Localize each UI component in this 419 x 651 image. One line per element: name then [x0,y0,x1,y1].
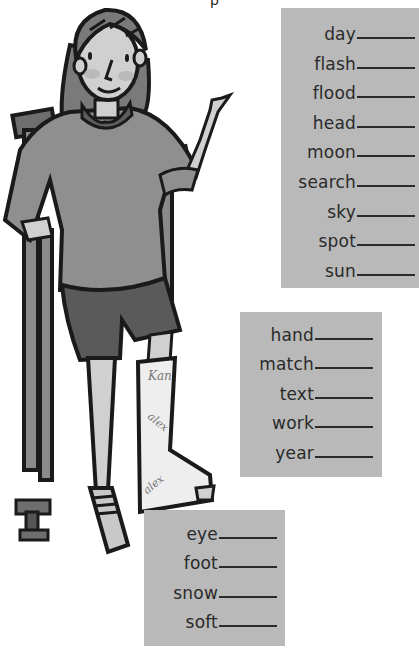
answer-blank[interactable] [219,537,277,539]
word-text: text [280,380,314,409]
left-hand [22,218,52,240]
word-row: eye [144,520,285,549]
word-row: snow [144,579,285,608]
answer-blank[interactable] [315,338,373,340]
eye-left [88,52,92,60]
answer-blank[interactable] [357,244,415,246]
answer-blank[interactable] [315,426,373,428]
word-box-1: day flash flood head moon search sky spo… [281,8,419,288]
word-eye: eye [186,520,218,549]
eye-right [125,54,129,62]
word-row: soft [144,608,285,637]
answer-blank[interactable] [357,126,415,128]
answer-blank[interactable] [219,625,277,627]
word-sun: sun [325,257,356,287]
word-match: match [259,350,314,379]
answer-blank[interactable] [357,96,415,98]
word-row: search [281,168,419,198]
word-row: head [281,109,419,139]
word-flash: flash [314,50,356,80]
word-year: year [275,439,314,468]
word-soft: soft [186,608,218,637]
left-leg [88,358,115,492]
word-foot: foot [184,549,218,578]
answer-blank[interactable] [357,37,415,39]
answer-blank[interactable] [219,566,277,568]
word-head: head [313,109,356,139]
answer-blank[interactable] [315,456,373,458]
raised-arm [185,95,230,178]
word-row: foot [144,549,285,578]
word-spot: spot [318,227,356,257]
word-row: text [240,380,382,409]
word-row: year [240,439,382,468]
answer-blank[interactable] [315,367,373,369]
word-hand: hand [270,321,314,350]
answer-blank[interactable] [357,274,415,276]
word-row: sun [281,257,419,287]
answer-blank[interactable] [357,155,415,157]
word-row: sky [281,198,419,228]
word-row: hand [240,321,382,350]
answer-blank[interactable] [357,215,415,217]
word-row: work [240,409,382,438]
word-work: work [272,409,314,438]
answer-blank[interactable] [357,185,415,187]
answer-blank[interactable] [219,596,277,598]
word-row: day [281,20,419,50]
word-moon: moon [307,138,356,168]
girl-on-crutches-illustration: Kan alex alex [0,0,240,560]
word-box-3: eye foot snow soft [144,510,285,646]
word-flood: flood [313,79,356,109]
answer-blank[interactable] [315,397,373,399]
word-day: day [324,20,356,50]
word-snow: snow [173,579,218,608]
sleeve-right [160,168,198,195]
word-sky: sky [327,198,356,228]
word-row: flash [281,50,419,80]
cast-signature-1: Kan [147,369,172,383]
word-row: moon [281,138,419,168]
word-row: flood [281,79,419,109]
word-box-2: hand match text work year [240,312,382,477]
word-row: match [240,350,382,379]
word-row: spot [281,227,419,257]
answer-blank[interactable] [357,67,415,69]
word-search: search [298,168,356,198]
